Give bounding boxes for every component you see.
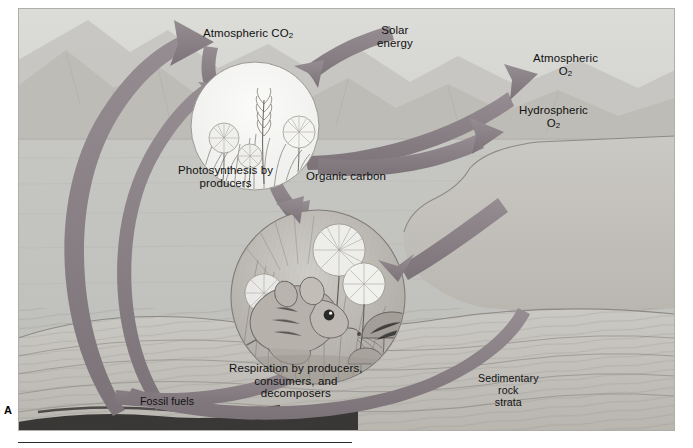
label-hydrospheric-o2-text: Hydrospheric [519,104,588,116]
label-atmospheric-co2-subscript: 2 [289,31,294,40]
label-organic-carbon: Organic carbon [306,170,386,183]
label-sedimentary-rock-strata: Sedimentary rock strata [478,373,539,408]
label-photosynthesis-by-producers: Photosynthesis by producers [178,164,273,189]
label-fossil-fuels: Fossil fuels [140,396,194,408]
mouse-eye [324,310,335,321]
label-solar-energy: Solar energy [377,24,413,49]
label-hydrospheric-o2-symbol: O [547,117,556,129]
label-atmospheric-o2-subscript: 2 [568,69,573,78]
figure-root: Atmospheric CO2 Solar energy Atmospheric… [0,0,693,448]
label-atmospheric-co2: Atmospheric CO2 [203,27,293,43]
label-hydrospheric-o2: HydrosphericO2 [519,104,588,133]
label-atmospheric-o2-text: Atmospheric [533,52,598,64]
label-hydrospheric-o2-subscript: 2 [556,121,561,130]
label-atmospheric-o2-symbol: O [559,65,568,77]
label-respiration-by-producers-consumers-decomposers: Respiration by producers, consumers, and… [229,362,363,400]
panel-letter: A [4,404,12,416]
caption-rule [18,442,352,443]
label-atmospheric-o2: AtmosphericO2 [533,52,598,81]
label-atmospheric-co2-text: Atmospheric CO [203,27,289,39]
